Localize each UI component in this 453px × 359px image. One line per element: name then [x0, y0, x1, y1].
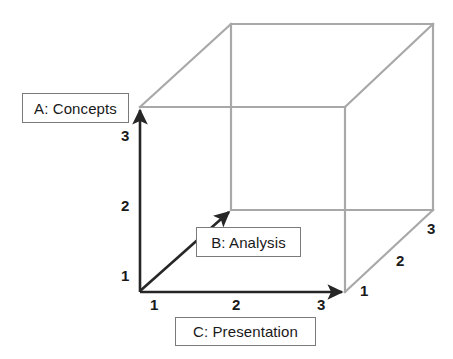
axis-label-c-text: C: Presentation	[193, 323, 298, 340]
tick-b-2: 2	[396, 253, 404, 268]
cube-edge-top-right-diag	[345, 24, 433, 107]
cube-edge-bottom-right-diag	[345, 210, 433, 292]
diagram-canvas: 1 2 3 1 2 3 1 2 3 A: Concepts B: Analysi…	[0, 0, 453, 359]
axis-label-b-analysis: B: Analysis	[196, 227, 301, 257]
tick-c-2: 2	[232, 297, 240, 312]
tick-b-1: 1	[360, 283, 368, 298]
tick-a-2: 2	[121, 198, 129, 213]
axis-lines	[140, 110, 342, 292]
tick-b-3: 3	[427, 221, 435, 236]
axis-label-a-concepts: A: Concepts	[22, 93, 129, 123]
cube-edge-top-left-diag	[140, 24, 231, 107]
tick-a-1: 1	[121, 268, 129, 283]
tick-c-1: 1	[150, 297, 158, 312]
axis-label-b-text: B: Analysis	[211, 234, 285, 251]
tick-c-3: 3	[317, 297, 325, 312]
axis-label-c-presentation: C: Presentation	[175, 317, 316, 346]
tick-a-3: 3	[121, 128, 129, 143]
cube-axes-drawing	[0, 0, 453, 359]
axis-label-a-text: A: Concepts	[34, 100, 117, 117]
